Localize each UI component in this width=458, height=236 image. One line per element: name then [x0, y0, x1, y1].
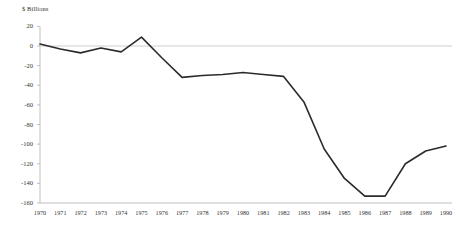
chart-plot-area [0, 0, 458, 236]
y-axis-tick-label: -100 [7, 140, 33, 147]
y-axis-tick-label: -140 [7, 179, 33, 186]
y-axis-tick-label: -40 [7, 81, 33, 88]
y-axis [37, 26, 40, 203]
y-axis-tick-label: -20 [7, 62, 33, 69]
y-axis-tick-label: 0 [7, 42, 33, 49]
y-axis-tick-label: -80 [7, 121, 33, 128]
x-axis-tick-label: 1990 [431, 209, 458, 216]
y-axis-tick-label: -160 [7, 199, 33, 206]
chart-container: $ Billions 200-20-40-60-80-100-120-140-1… [0, 0, 458, 236]
y-axis-tick-label: 20 [7, 22, 33, 29]
data-series-line [40, 37, 446, 196]
y-axis-tick-label: -120 [7, 160, 33, 167]
y-axis-tick-label: -60 [7, 101, 33, 108]
